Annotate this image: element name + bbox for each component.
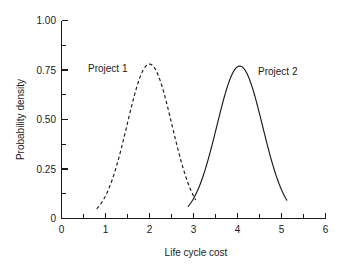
x-tick-label-3: 3 [191, 224, 197, 235]
chart-canvas: 1.00 0.75 0.50 0.25 0 0 1 2 3 4 5 6 Life… [0, 0, 342, 267]
y-tick-label-0.75: 0.75 [37, 65, 57, 76]
y-tick-label-0.50: 0.50 [37, 114, 57, 125]
x-tick-label-5: 5 [279, 224, 285, 235]
y-tick-label-0.25: 0.25 [37, 164, 57, 175]
x-axis-tick-labels: 0 1 2 3 4 5 6 [59, 224, 329, 235]
series-label-project-1: Project 1 [88, 63, 128, 74]
x-tick-label-0: 0 [59, 224, 65, 235]
y-axis-tick-labels: 1.00 0.75 0.50 0.25 0 [37, 15, 57, 224]
series-label-project-2: Project 2 [258, 66, 298, 77]
data-curves [97, 64, 287, 209]
x-tick-label-2: 2 [147, 224, 153, 235]
curve-project-2 [188, 66, 287, 206]
axis-lines [62, 21, 326, 219]
y-axis-title: Probability density [15, 79, 26, 160]
x-tick-label-1: 1 [103, 224, 109, 235]
y-axis-major-ticks [62, 21, 68, 219]
curve-project-1 [97, 64, 196, 209]
x-tick-label-6: 6 [323, 224, 329, 235]
y-tick-label-1.00: 1.00 [37, 15, 57, 26]
y-tick-label-0: 0 [50, 213, 56, 224]
x-tick-label-4: 4 [235, 224, 241, 235]
x-axis-major-ticks [62, 213, 326, 219]
probability-density-chart: 1.00 0.75 0.50 0.25 0 0 1 2 3 4 5 6 Life… [0, 0, 342, 267]
x-axis-title: Life cycle cost [165, 247, 228, 258]
